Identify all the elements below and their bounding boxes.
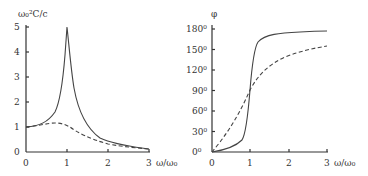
svg-text:120⁰: 120⁰: [186, 65, 207, 75]
svg-text:2: 2: [286, 158, 292, 168]
svg-text:3: 3: [324, 158, 330, 168]
svg-text:2: 2: [105, 158, 111, 168]
right-y-ticks: 0⁰ 30⁰ 60⁰ 90⁰ 120⁰ 150⁰ 180⁰: [186, 24, 215, 157]
svg-text:0: 0: [23, 158, 29, 168]
left-chart: ω₀²C/c 0 1 2 3 4 5 0 1 2 3 ω/ω₀: [14, 9, 178, 168]
svg-text:2: 2: [14, 97, 20, 107]
right-solid-curve: [212, 31, 327, 152]
svg-text:3: 3: [146, 158, 152, 168]
svg-text:0⁰: 0⁰: [192, 147, 202, 157]
svg-text:3: 3: [14, 72, 20, 82]
svg-text:1: 1: [247, 158, 253, 168]
svg-text:0: 0: [209, 158, 215, 168]
figure: ω₀²C/c 0 1 2 3 4 5 0 1 2 3 ω/ω₀: [0, 0, 368, 176]
right-y-label: φ: [211, 9, 217, 19]
svg-text:0: 0: [14, 147, 20, 157]
svg-text:30⁰: 30⁰: [192, 127, 207, 137]
left-dashed-curve: [26, 123, 149, 149]
left-x-label: ω/ω₀: [156, 158, 178, 168]
svg-text:1: 1: [14, 122, 20, 132]
svg-text:1: 1: [64, 158, 70, 168]
svg-text:150⁰: 150⁰: [186, 45, 207, 55]
svg-text:180⁰: 180⁰: [186, 24, 207, 34]
svg-text:60⁰: 60⁰: [192, 106, 207, 116]
svg-text:4: 4: [14, 47, 20, 57]
right-x-label: ω/ω₀: [334, 158, 356, 168]
left-y-ticks: 0 1 2 3 4 5: [14, 22, 29, 157]
svg-text:90⁰: 90⁰: [192, 86, 207, 96]
right-dashed-curve: [212, 46, 327, 152]
right-chart: φ 0⁰ 30⁰ 60⁰ 90⁰ 120⁰ 150⁰ 180⁰ 0 1 2 3: [186, 9, 356, 168]
svg-text:5: 5: [14, 22, 20, 32]
left-solid-curve: [26, 27, 149, 149]
left-y-label: ω₀²C/c: [18, 9, 48, 19]
